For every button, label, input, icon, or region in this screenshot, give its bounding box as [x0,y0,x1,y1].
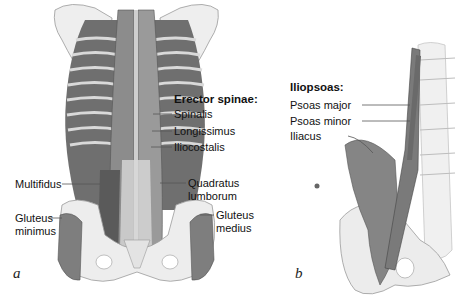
label-multifidus: Multifidus [15,178,61,191]
label-quadratus-lumborum: Quadratuslumborum [188,177,239,203]
label-gluteus-minimus: Gluteusminimus [15,212,56,238]
panel-letter-a: a [13,265,21,282]
erector-spinae-heading: Erector spinae: [174,93,258,106]
label-gluteus-medius: Gluteusmedius [216,209,254,235]
label-psoas-minor: Psoas minor [290,115,351,128]
label-psoas-major: Psoas major [290,99,351,112]
panel-letter-b: b [295,265,303,282]
iliopsoas-heading: Iliopsoas: [290,81,344,94]
label-iliacus: Iliacus [290,130,321,143]
label-spinalis: Spinalis [174,108,213,121]
label-iliocostalis: Iliocostalis [174,141,225,154]
anatomy-illustration [0,0,467,303]
label-longissimus: Longissimus [174,125,235,138]
